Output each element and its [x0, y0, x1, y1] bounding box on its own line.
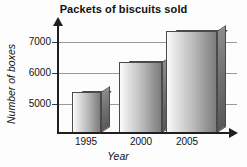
y-axis-line: [57, 24, 59, 133]
bar-2005-side-face: [217, 25, 226, 133]
x-tick-label-1995: 1995: [60, 136, 112, 147]
arrow-up-icon: [53, 17, 63, 26]
y-tick-label-5000: 5000: [11, 98, 51, 109]
x-axis-title: Year: [78, 150, 158, 162]
bar-2005-front-face: [166, 31, 217, 133]
chart-title: Packets of biscuits sold: [0, 3, 247, 15]
x-tick-label-2005: 2005: [161, 136, 213, 147]
bar-2005: [166, 31, 217, 133]
arrow-right-icon: [229, 128, 238, 138]
bar-1995-front-face: [72, 92, 101, 133]
bar-2000: [119, 62, 162, 133]
bar-1995: [72, 92, 101, 133]
bar-1995-side-face: [101, 86, 110, 133]
bar-2000-front-face: [119, 62, 162, 133]
y-tick-label-6000: 6000: [11, 67, 51, 78]
x-axis-line: [57, 132, 229, 134]
x-tick-label-2000: 2000: [115, 136, 167, 147]
bar-chart: Packets of biscuits sold Number of boxes…: [0, 0, 247, 167]
y-tick-label-7000: 7000: [11, 36, 51, 47]
